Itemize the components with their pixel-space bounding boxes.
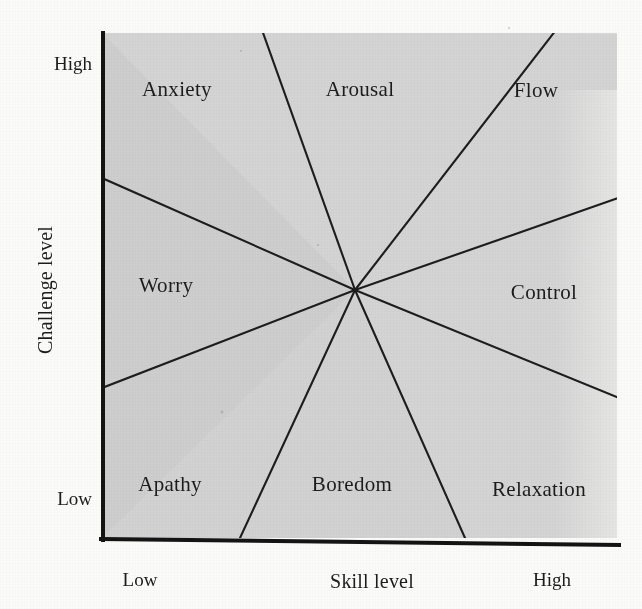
sector-label-worry: Worry <box>139 273 194 297</box>
sector-label-relaxation: Relaxation <box>492 477 586 501</box>
x-axis-title: Skill level <box>330 570 414 592</box>
x-axis-line <box>101 539 619 545</box>
y-axis-title: Challenge level <box>34 226 57 354</box>
flow-model-diagram: Anxiety Arousal Flow Worry Control Apath… <box>0 0 642 609</box>
y-axis-high-label: High <box>54 53 93 74</box>
sector-label-anxiety: Anxiety <box>142 77 212 101</box>
sector-label-control: Control <box>511 280 577 304</box>
sector-label-boredom: Boredom <box>312 472 392 496</box>
sector-label-apathy: Apathy <box>138 472 202 496</box>
x-axis-low-label: Low <box>123 569 158 590</box>
y-axis-low-label: Low <box>57 488 92 509</box>
sector-label-flow: Flow <box>514 78 559 102</box>
figure-canvas: Anxiety Arousal Flow Worry Control Apath… <box>0 0 642 609</box>
x-axis-high-label: High <box>533 569 572 590</box>
sector-label-arousal: Arousal <box>326 77 395 101</box>
